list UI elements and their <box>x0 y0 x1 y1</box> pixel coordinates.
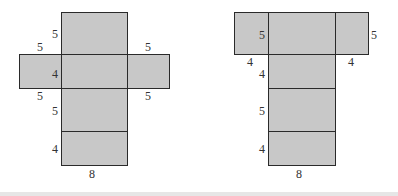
label-left-flap-width: 4 <box>247 56 253 68</box>
label-top-height-inner: 5 <box>259 29 265 41</box>
face-top-center <box>268 12 336 55</box>
face-bottom <box>268 131 336 166</box>
face-third <box>268 88 336 132</box>
label-bottom-height: 4 <box>259 143 265 155</box>
label-second-height: 4 <box>259 68 265 80</box>
label-base-width: 8 <box>296 168 302 180</box>
face-top-right-flap <box>335 12 369 55</box>
label-third-height: 5 <box>259 105 265 117</box>
net-right: 5 5 4 4 4 5 4 8 <box>0 0 398 196</box>
label-right-flap-width: 4 <box>348 56 354 68</box>
face-second <box>268 54 336 89</box>
label-top-height-right: 5 <box>371 29 377 41</box>
bottom-divider <box>0 192 398 196</box>
